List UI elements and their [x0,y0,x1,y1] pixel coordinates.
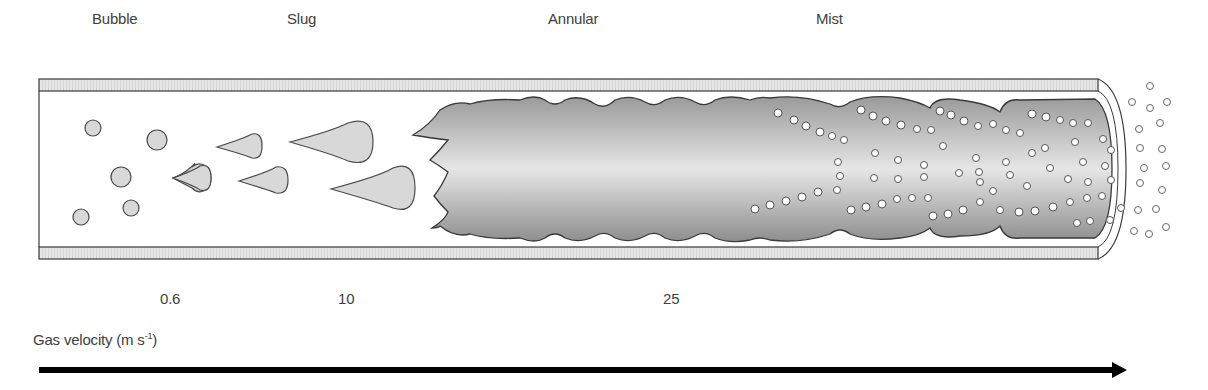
bubble-regime [73,120,167,225]
two-phase-flow-diagram [0,0,1208,390]
axis-label-suffix: ) [152,331,157,348]
pipe-bottom-wall [39,247,1098,259]
slug-drop [217,134,262,159]
gas-velocity-arrow [39,362,1127,378]
axis-label: Gas velocity (m s-1) [33,331,157,348]
slug-regime [173,121,415,209]
bubble [147,130,167,150]
velocity-tick-0-6: 0.6 [160,290,180,307]
velocity-tick-10: 10 [338,290,354,307]
exit-mist-droplets [1129,83,1171,238]
bubble [123,200,139,216]
bubble [111,167,131,187]
arrowhead-icon [1112,362,1127,378]
bubble [73,209,89,225]
velocity-tick-25: 25 [663,290,679,307]
slug-drop [331,166,415,209]
slug-drop [290,121,373,162]
annular-liquid-core [413,97,1112,242]
axis-label-text: Gas velocity (m s [33,331,145,348]
pipe-top-wall [39,79,1098,91]
bubble [85,120,101,136]
slug-drop [239,167,288,193]
